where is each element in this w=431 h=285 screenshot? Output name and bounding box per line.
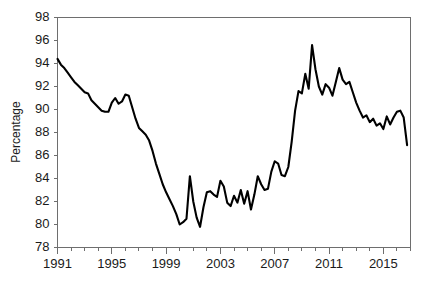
y-tick-label: 84 xyxy=(35,170,49,185)
plot-frame xyxy=(58,18,411,248)
y-axis-tick-labels: 7880828486889092949698 xyxy=(35,9,49,254)
x-tick-label: 2003 xyxy=(206,256,235,271)
y-tick-label: 90 xyxy=(35,101,49,116)
data-line-percentage xyxy=(58,45,408,227)
y-tick-label: 86 xyxy=(35,147,49,162)
series-group xyxy=(58,45,408,227)
y-tick-label: 88 xyxy=(35,124,49,139)
y-tick-label: 98 xyxy=(35,9,49,24)
plot-area-border xyxy=(58,18,411,248)
y-axis-title: Percentage xyxy=(9,101,23,163)
y-axis-title-group: Percentage xyxy=(9,101,23,163)
x-axis-ticks xyxy=(58,248,411,254)
x-tick-label: 1995 xyxy=(97,256,126,271)
y-tick-label: 78 xyxy=(35,239,49,254)
y-tick-label: 94 xyxy=(35,55,49,70)
y-tick-label: 92 xyxy=(35,78,49,93)
y-tick-label: 82 xyxy=(35,193,49,208)
x-tick-label: 2015 xyxy=(369,256,398,271)
line-chart: 7880828486889092949698 19911995199920032… xyxy=(0,0,431,285)
y-tick-label: 96 xyxy=(35,32,49,47)
x-tick-label: 1991 xyxy=(43,256,72,271)
chart-container: 7880828486889092949698 19911995199920032… xyxy=(0,0,431,285)
x-tick-label: 2007 xyxy=(260,256,289,271)
y-axis-ticks xyxy=(54,18,58,248)
x-axis-tick-labels: 1991199519992003200720112015 xyxy=(43,256,398,271)
x-tick-label: 2011 xyxy=(315,256,343,271)
x-tick-label: 1999 xyxy=(152,256,181,271)
y-tick-label: 80 xyxy=(35,216,49,231)
